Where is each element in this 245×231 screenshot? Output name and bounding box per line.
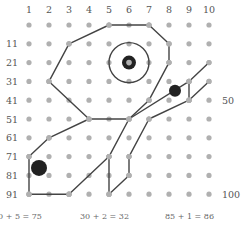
grid-dot [26, 98, 31, 103]
grid-dot [86, 116, 91, 121]
path-segment [69, 157, 109, 195]
grid-dot [166, 192, 171, 197]
grid-dot [126, 135, 131, 140]
grid-dot [186, 41, 191, 46]
column-label: 8 [166, 4, 172, 15]
grid-dot [126, 116, 131, 121]
equation-text: 85 + 1 = 86 [165, 212, 214, 221]
grid-dot [146, 154, 151, 159]
grid-dot [66, 192, 71, 197]
grid-dot [46, 41, 51, 46]
grid-dot [66, 41, 71, 46]
column-label: 6 [126, 4, 132, 15]
grid-dot [86, 135, 91, 140]
grid-dot [146, 98, 151, 103]
row-label: 91 [6, 189, 18, 200]
path-segment [149, 63, 169, 101]
grid-dot [186, 173, 191, 178]
grid-dot [146, 79, 151, 84]
grid-dot [26, 79, 31, 84]
grid-dot [146, 192, 151, 197]
row-label: 61 [6, 132, 18, 143]
equation-text: 0 + 5 = 75 [0, 212, 42, 221]
path-segment [129, 100, 149, 119]
grid-dot [26, 192, 31, 197]
path-segment [49, 119, 89, 138]
grid-dot [86, 154, 91, 159]
grid-dot [86, 98, 91, 103]
grid-dot [126, 98, 131, 103]
path-segment [49, 44, 69, 82]
path-segment [49, 81, 89, 119]
grid-dot [86, 22, 91, 27]
grid-dot [66, 60, 71, 65]
grid-dot [186, 79, 191, 84]
grid-dot [66, 173, 71, 178]
grid-dot [46, 22, 51, 27]
row-label: 21 [6, 57, 18, 68]
column-label: 1 [26, 4, 32, 15]
grid-dot [66, 154, 71, 159]
column-label: 9 [186, 4, 192, 15]
grid-dot [146, 41, 151, 46]
equation-text: 30 + 2 = 32 [80, 212, 129, 221]
column-label: 5 [106, 4, 112, 15]
grid-dot [206, 41, 211, 46]
grid-dot [186, 116, 191, 121]
grid-dot [206, 98, 211, 103]
right-label: 100 [222, 189, 240, 200]
grid-dot [26, 22, 31, 27]
grid-dot [46, 154, 51, 159]
grid-dot [46, 79, 51, 84]
grid-dot [46, 116, 51, 121]
grid-dot [86, 79, 91, 84]
grid-dot [146, 173, 151, 178]
marker-dot [31, 160, 47, 176]
grid-dot [166, 154, 171, 159]
grid-dot [46, 60, 51, 65]
column-label: 10 [203, 4, 215, 15]
grid-dot [186, 192, 191, 197]
grid-dot [186, 22, 191, 27]
grid-dot [146, 116, 151, 121]
row-label: 51 [6, 114, 18, 125]
grid-dot [106, 41, 111, 46]
grid-dot [106, 79, 111, 84]
path-segment [109, 175, 129, 194]
grid-dot [166, 98, 171, 103]
grid-dot [186, 154, 191, 159]
grid-dot [46, 135, 51, 140]
grid-dot [126, 192, 131, 197]
grid-dot [186, 98, 191, 103]
grid-dot [166, 60, 171, 65]
grid-dot [206, 79, 211, 84]
grid-dot [166, 116, 171, 121]
grid-dot [86, 60, 91, 65]
grid-dot [146, 135, 151, 140]
grid-dot [46, 173, 51, 178]
grid-dot [206, 22, 211, 27]
column-label: 7 [146, 4, 152, 15]
grid-dot [126, 154, 131, 159]
grid-dot [166, 41, 171, 46]
grid-dot [186, 135, 191, 140]
right-label: 50 [222, 95, 234, 106]
grid-dot [206, 60, 211, 65]
grid-dot [66, 79, 71, 84]
grid-dot [206, 135, 211, 140]
path-segment [189, 63, 209, 82]
grid-dot [26, 154, 31, 159]
path-segment [189, 81, 209, 100]
path-segment [69, 25, 109, 44]
row-label: 81 [6, 170, 18, 181]
grid-dot [126, 173, 131, 178]
grid-dot [186, 60, 191, 65]
path-segment [149, 25, 169, 44]
grid-dot [26, 41, 31, 46]
grid-dot [106, 135, 111, 140]
grid-dot [206, 154, 211, 159]
path-segment [109, 119, 129, 157]
grid-dot [106, 192, 111, 197]
grid-dot [26, 60, 31, 65]
row-label: 71 [6, 151, 18, 162]
